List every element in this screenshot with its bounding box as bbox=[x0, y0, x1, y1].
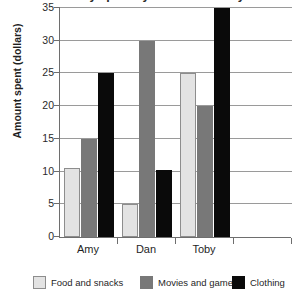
x-tick-mark bbox=[233, 238, 234, 244]
legend-item: Clothing bbox=[232, 276, 285, 289]
x-tick-mark bbox=[291, 238, 292, 244]
bar-group bbox=[118, 8, 176, 237]
x-tick-label: Dan bbox=[116, 243, 176, 255]
bar-group bbox=[60, 8, 118, 237]
legend-swatch bbox=[232, 276, 245, 289]
x-tick-label: Toby bbox=[174, 243, 234, 255]
bar bbox=[180, 73, 196, 237]
x-tick-mark bbox=[175, 238, 176, 244]
bar-group bbox=[176, 8, 234, 237]
bar bbox=[139, 41, 155, 237]
legend-item: Food and snacks bbox=[33, 276, 123, 289]
bar bbox=[64, 168, 80, 237]
legend-label: Movies and games bbox=[158, 277, 238, 288]
x-tick-mark bbox=[117, 238, 118, 244]
legend-label: Clothing bbox=[250, 277, 285, 288]
bar bbox=[81, 139, 97, 237]
y-tick-label: 20 bbox=[28, 99, 54, 111]
bar bbox=[214, 8, 230, 237]
bar bbox=[156, 170, 172, 237]
plot-area bbox=[59, 7, 291, 238]
bar bbox=[197, 106, 213, 237]
y-tick-label: 10 bbox=[28, 165, 54, 177]
legend-swatch bbox=[33, 276, 46, 289]
y-tick-label: 25 bbox=[28, 66, 54, 78]
bar bbox=[98, 73, 114, 237]
y-axis-title: Amount spent (dollars) bbox=[11, 0, 23, 166]
x-tick-label: Amy bbox=[58, 243, 118, 255]
bar bbox=[122, 204, 138, 237]
legend-label: Food and snacks bbox=[51, 277, 123, 288]
y-tick-label: 15 bbox=[28, 132, 54, 144]
y-tick-label: 5 bbox=[28, 197, 54, 209]
legend-swatch bbox=[140, 276, 153, 289]
y-tick-label: 30 bbox=[28, 34, 54, 46]
legend-item: Movies and games bbox=[140, 276, 238, 289]
chart-legend: Food and snacksMovies and gamesClothing bbox=[0, 271, 302, 293]
y-tick-label: 35 bbox=[28, 1, 54, 13]
y-tick-label: 0 bbox=[28, 230, 54, 242]
